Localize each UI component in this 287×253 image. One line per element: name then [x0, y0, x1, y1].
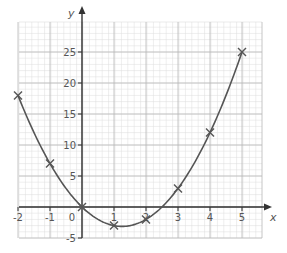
curve [18, 52, 242, 226]
major-grid [18, 22, 262, 238]
x-axis-label: x [269, 211, 277, 224]
x-tick-label: 4 [207, 212, 213, 223]
x-tick-label: 5 [239, 212, 245, 223]
y-tick-label: 10 [63, 140, 76, 151]
y-tick-label: 5 [70, 171, 76, 182]
y-tick-label: 15 [63, 109, 76, 120]
y-axis-label: y [67, 7, 75, 20]
y-tick-label: -5 [66, 233, 76, 244]
x-tick-label: -1 [45, 212, 55, 223]
x-tick-label: 3 [175, 212, 181, 223]
x-tick-label: 1 [111, 212, 117, 223]
minor-grid [19, 22, 262, 238]
y-tick-label: 25 [63, 47, 76, 58]
x-tick-label: -2 [13, 212, 23, 223]
y-tick-label: 20 [63, 78, 76, 89]
axes [18, 6, 272, 238]
x-tick-label: 0 [69, 212, 75, 223]
quadratic-graph: -2-1012345-5510152025 x y [0, 0, 287, 253]
